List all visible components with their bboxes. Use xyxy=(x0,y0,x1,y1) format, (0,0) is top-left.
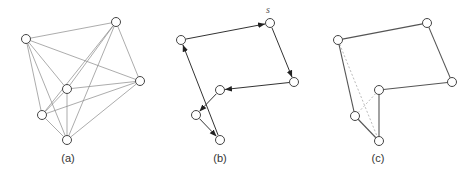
node-circle-icon xyxy=(266,19,275,28)
edge xyxy=(69,26,115,136)
edge xyxy=(342,24,422,39)
node-circle-icon xyxy=(22,35,31,44)
node-circle-icon xyxy=(375,137,384,146)
start-node-label: s xyxy=(266,4,270,15)
edge xyxy=(45,26,113,112)
edge xyxy=(118,26,139,77)
edge xyxy=(46,82,135,113)
edge xyxy=(27,43,41,110)
edge xyxy=(358,119,376,138)
node-circle-icon xyxy=(290,78,299,87)
edge xyxy=(30,41,136,80)
node-circle-icon xyxy=(448,78,457,87)
edge xyxy=(70,26,114,86)
caption-c: (c) xyxy=(358,152,398,164)
node-circle-icon xyxy=(177,36,186,45)
node-circle-icon xyxy=(112,18,121,27)
node-circle-icon xyxy=(334,36,343,45)
node-circle-icon xyxy=(216,136,225,145)
directed-edge xyxy=(272,28,292,78)
edge xyxy=(429,27,450,78)
edge xyxy=(45,118,64,137)
node-circle-icon xyxy=(216,86,225,95)
directed-edge xyxy=(199,119,216,137)
edge xyxy=(339,44,354,111)
edge xyxy=(71,81,135,88)
directed-edge xyxy=(183,45,218,136)
node-circle-icon xyxy=(63,85,72,94)
node-circle-icon xyxy=(423,19,432,28)
node-circle-icon xyxy=(192,111,201,120)
panel-c-two-opt-tour xyxy=(334,19,457,146)
panel-a-complete-graph xyxy=(22,18,145,145)
node-circle-icon xyxy=(63,136,72,145)
removed-edge xyxy=(340,44,378,137)
directed-edge xyxy=(225,83,289,90)
caption-b: (b) xyxy=(200,152,240,164)
edge xyxy=(70,84,136,137)
node-circle-icon xyxy=(375,86,384,95)
edge xyxy=(383,82,447,89)
panel-b-directed-tour xyxy=(177,19,299,145)
edge xyxy=(28,43,66,136)
node-circle-icon xyxy=(351,112,360,121)
node-circle-icon xyxy=(136,77,145,86)
caption-a: (a) xyxy=(48,152,88,164)
node-circle-icon xyxy=(38,111,47,120)
edge xyxy=(30,23,111,38)
directed-edge xyxy=(186,24,265,39)
